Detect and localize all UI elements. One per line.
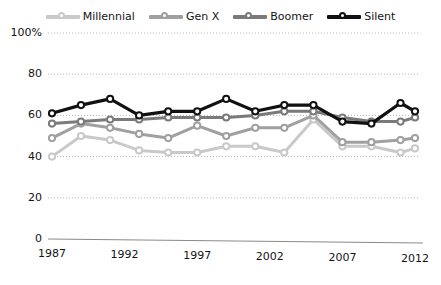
data-point-marker — [223, 133, 229, 139]
data-point-marker — [252, 125, 258, 131]
data-point-marker — [412, 135, 418, 141]
x-axis-tick-label: 2007 — [322, 252, 362, 263]
data-point-marker — [281, 125, 287, 131]
data-point-marker — [397, 100, 403, 106]
plot-area: 020406080100%198719921997200220072012 — [0, 0, 441, 285]
x-axis-tick-label: 1987 — [32, 248, 72, 259]
data-point-marker — [397, 119, 403, 125]
data-point-marker — [107, 96, 113, 102]
data-point-marker — [194, 108, 200, 114]
data-point-marker — [194, 123, 200, 129]
data-point-marker — [165, 149, 171, 155]
series-line — [52, 120, 415, 157]
y-axis-tick-label: 100% — [0, 27, 42, 38]
data-point-marker — [368, 139, 374, 145]
x-axis-tick-label: 1997 — [177, 250, 217, 261]
data-point-marker — [412, 108, 418, 114]
data-point-marker — [412, 145, 418, 151]
y-axis-tick-label: 60 — [0, 109, 42, 120]
data-point-marker — [223, 143, 229, 149]
data-point-marker — [78, 133, 84, 139]
chart-canvas — [0, 0, 441, 285]
data-point-marker — [78, 119, 84, 125]
data-point-marker — [136, 147, 142, 153]
data-point-marker — [49, 121, 55, 127]
data-point-marker — [339, 139, 345, 145]
data-point-marker — [49, 154, 55, 160]
data-point-marker — [165, 108, 171, 114]
data-point-marker — [107, 137, 113, 143]
data-point-marker — [368, 121, 374, 127]
data-point-marker — [165, 135, 171, 141]
data-point-marker — [49, 135, 55, 141]
data-point-marker — [107, 116, 113, 122]
data-point-marker — [252, 108, 258, 114]
data-point-marker — [194, 149, 200, 155]
data-point-marker — [107, 125, 113, 131]
data-point-marker — [281, 102, 287, 108]
generation-trend-line-chart: MillennialGen XBoomerSilent 020406080100… — [0, 0, 441, 285]
y-axis-tick-label: 20 — [0, 192, 42, 203]
x-axis-tick-label: 2012 — [395, 253, 435, 264]
series-silent — [49, 96, 418, 127]
data-point-marker — [223, 114, 229, 120]
y-axis-tick-label: 0 — [0, 233, 42, 244]
data-point-marker — [49, 110, 55, 116]
x-axis-tick-label: 2002 — [250, 251, 290, 262]
data-point-marker — [223, 96, 229, 102]
data-point-marker — [78, 102, 84, 108]
data-point-marker — [310, 102, 316, 108]
data-point-marker — [136, 112, 142, 118]
y-axis-tick-label: 40 — [0, 151, 42, 162]
data-point-marker — [339, 119, 345, 125]
data-point-marker — [281, 149, 287, 155]
data-point-marker — [136, 131, 142, 137]
y-axis-tick-label: 80 — [0, 68, 42, 79]
data-point-marker — [252, 143, 258, 149]
x-axis-line — [48, 239, 423, 243]
x-axis-tick-label: 1992 — [105, 249, 145, 260]
data-point-marker — [397, 149, 403, 155]
data-point-marker — [397, 137, 403, 143]
